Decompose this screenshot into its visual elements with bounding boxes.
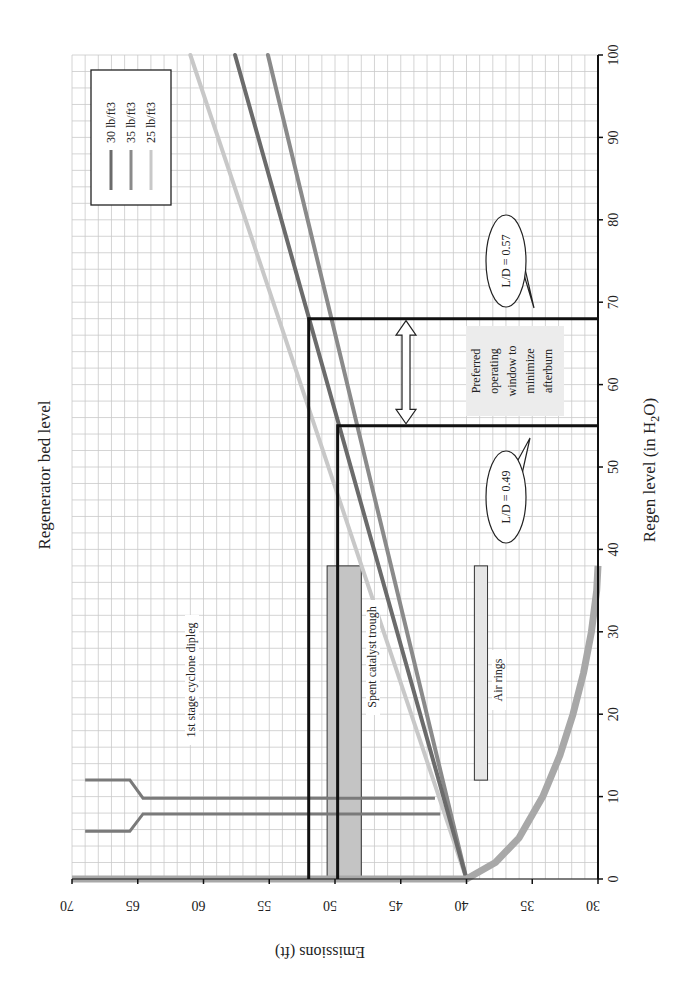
cyclone-dipleg (85, 814, 440, 831)
x-tick-label: 0 (606, 876, 621, 883)
x-tick-label: 60 (606, 378, 621, 392)
legend-label-35: 35 lb/ft3 (124, 102, 138, 143)
window-label-line: afterburn (541, 349, 555, 393)
chart-title: Regenerator bed level (35, 400, 54, 549)
spent-catalyst-trough-region (327, 566, 361, 879)
y-tick-label: 60 (192, 898, 206, 913)
y-tick-label: 35 (520, 898, 534, 913)
annotations: 1st stage cyclone diplegSpent catalyst t… (184, 215, 564, 745)
x-tick-label: 90 (606, 130, 621, 144)
x-tick-label: 80 (606, 213, 621, 227)
y-tick-label: 70 (60, 898, 74, 913)
air-rings-region (474, 566, 487, 780)
ld-057-bubble: L/D = 0.57 (486, 215, 534, 308)
window-double-arrow-icon (396, 321, 416, 424)
trough-label: Spent catalyst trough (365, 606, 379, 707)
y-tick-label: 30 (586, 898, 600, 913)
window-label-line: operating (487, 348, 501, 393)
x-tick-label: 50 (606, 460, 621, 474)
x-tick-label: 20 (606, 707, 621, 721)
x-axis-label: Regen level (in H2O) (640, 398, 662, 542)
y-tick-label: 40 (455, 898, 469, 913)
legend: 30 lb/ft3 35 lb/ft3 25 lb/ft3 (91, 70, 171, 205)
y-tick-label: 65 (126, 898, 140, 913)
y-tick-label: 55 (257, 898, 271, 913)
regenerator-bed-level-chart: 0102030405060708090100303540455055606570… (0, 0, 693, 991)
regions (327, 566, 487, 879)
y-tick-label: 50 (323, 898, 337, 913)
window-label-line: Preferred (469, 349, 483, 394)
window-label-line: window to (505, 346, 519, 397)
legend-label-25: 25 lb/ft3 (144, 102, 158, 143)
x-tick-label: 30 (606, 625, 621, 639)
x-tick-label: 70 (606, 295, 621, 309)
bubble-text: L/D = 0.57 (499, 234, 513, 287)
x-tick-label: 100 (606, 45, 621, 66)
y-axis-label: Emissions (ft) (275, 943, 365, 961)
x-tick-label: 10 (606, 790, 621, 804)
airrings-label: Air rings (491, 658, 505, 701)
bubble-text: L/D = 0.49 (499, 470, 513, 523)
window-label-line: minimize (523, 348, 537, 393)
legend-label-30: 30 lb/ft3 (104, 102, 118, 143)
x-tick-label: 40 (606, 542, 621, 556)
dipleg-label: 1st stage cyclone dipleg (184, 623, 198, 738)
y-tick-label: 45 (389, 898, 403, 913)
